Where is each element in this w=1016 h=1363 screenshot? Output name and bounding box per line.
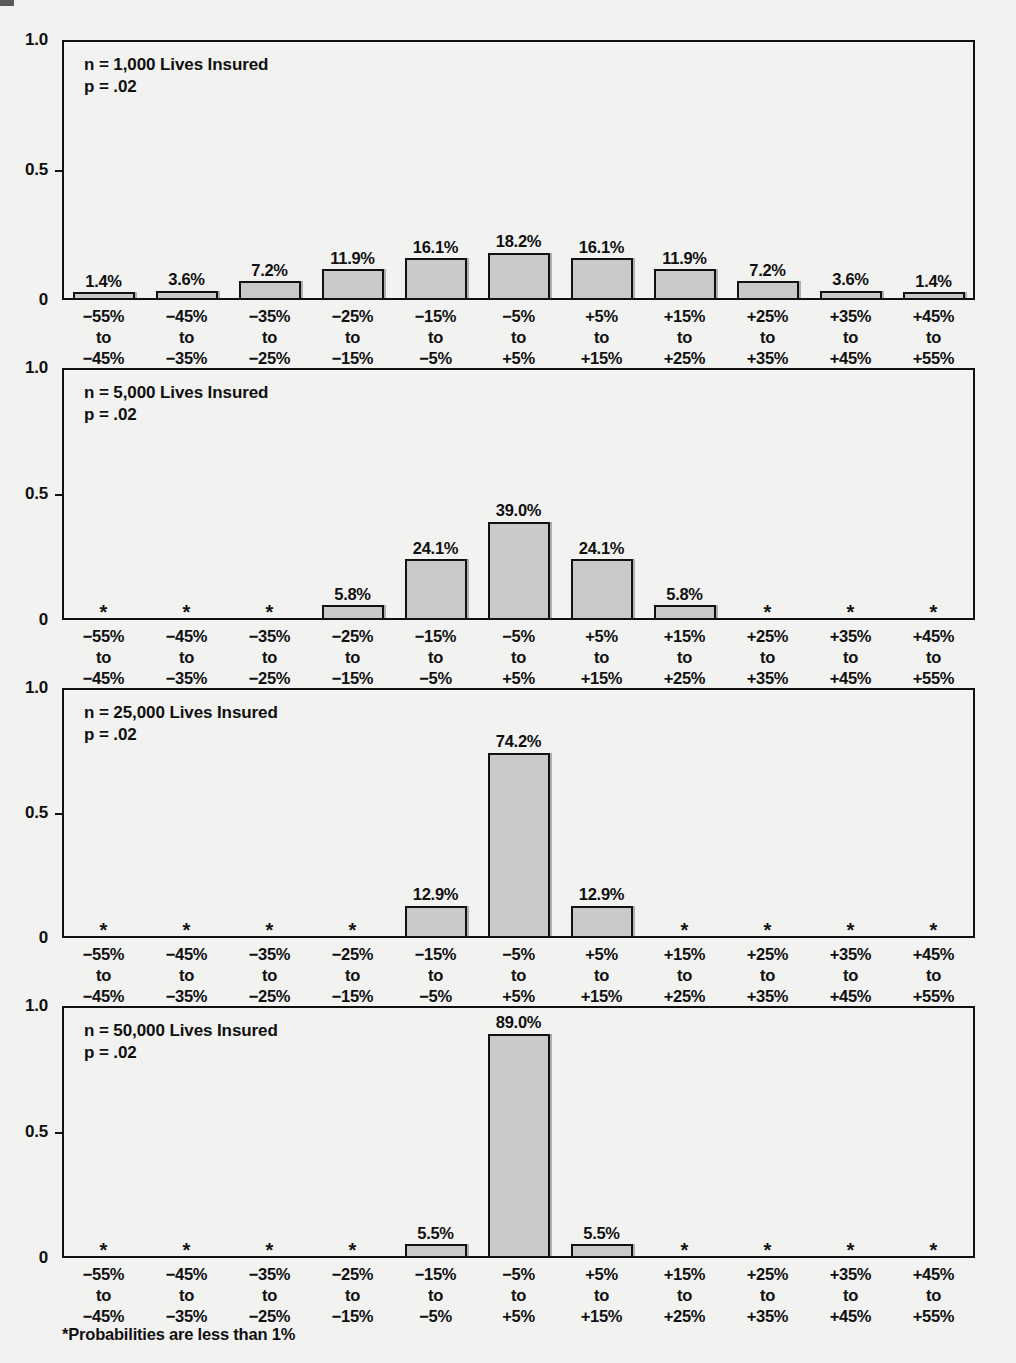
x-axis-tick-label: −5% to +5%: [477, 944, 560, 1007]
bar-value-label: 89.0%: [496, 1014, 541, 1031]
x-axis-labels: −55% to −45%−45% to −35%−35% to −25%−25%…: [62, 944, 975, 1007]
bar[interactable]: [571, 559, 633, 620]
x-axis-tick-label: −25% to −15%: [311, 944, 394, 1007]
bar[interactable]: [156, 291, 218, 300]
x-axis-tick-label: +25% to +35%: [726, 306, 809, 369]
x-axis-tick-label: −55% to −45%: [62, 626, 145, 689]
bar-slot: 12.9%: [560, 688, 643, 938]
y-axis-tick-label: 0.5: [0, 484, 48, 504]
x-axis-tick-label: −45% to −35%: [145, 944, 228, 1007]
x-axis-tick-label: −35% to −25%: [228, 1264, 311, 1327]
bar[interactable]: [571, 258, 633, 300]
bar[interactable]: [405, 258, 467, 300]
bar-value-label: 18.2%: [496, 233, 541, 250]
x-axis-tick-label: −45% to −35%: [145, 1264, 228, 1327]
bar-value-label: 39.0%: [496, 502, 541, 519]
bar-slot: 16.1%: [394, 40, 477, 300]
x-axis-tick-label: +5% to +15%: [560, 944, 643, 1007]
bar[interactable]: [571, 1244, 633, 1258]
bar-slot: *: [145, 368, 228, 620]
bar-value-label: 3.6%: [832, 271, 868, 288]
x-axis-tick-label: −45% to −35%: [145, 306, 228, 369]
bar[interactable]: [73, 292, 135, 300]
y-axis-tick-label: 1.0: [0, 996, 48, 1016]
less-than-one-percent-marker: *: [930, 1240, 938, 1260]
bar-slot: 11.9%: [643, 40, 726, 300]
bar[interactable]: [737, 281, 799, 300]
y-axis-tick-label: 1.0: [0, 30, 48, 50]
bar-value-label: 3.6%: [168, 271, 204, 288]
bar-value-label: 11.9%: [330, 250, 374, 267]
x-axis-tick-label: −35% to −25%: [228, 306, 311, 369]
x-axis-tick-label: −55% to −45%: [62, 1264, 145, 1327]
less-than-one-percent-marker: *: [266, 920, 274, 940]
y-axis-tick-label: 0: [0, 610, 48, 630]
bar-slot: *: [311, 688, 394, 938]
bar-slot: 5.5%: [394, 1006, 477, 1258]
less-than-one-percent-marker: *: [183, 1240, 191, 1260]
y-axis-tick-label: 0.5: [0, 803, 48, 823]
bar[interactable]: [239, 281, 301, 300]
bar[interactable]: [654, 269, 716, 300]
less-than-one-percent-marker: *: [930, 602, 938, 622]
bar[interactable]: [405, 1244, 467, 1258]
bar[interactable]: [488, 1034, 550, 1258]
bar-slot: *: [643, 688, 726, 938]
less-than-one-percent-marker: *: [847, 1240, 855, 1260]
bar-value-label: 7.2%: [251, 262, 287, 279]
bar-value-label: 5.5%: [583, 1225, 619, 1242]
less-than-one-percent-marker: *: [764, 602, 772, 622]
bar-slot: *: [809, 688, 892, 938]
bar-slot: *: [311, 1006, 394, 1258]
bar-slot: *: [809, 1006, 892, 1258]
bar[interactable]: [405, 906, 467, 938]
bar-slot: *: [643, 1006, 726, 1258]
x-axis-tick-label: +5% to +15%: [560, 626, 643, 689]
bar-slot: *: [228, 368, 311, 620]
less-than-one-percent-marker: *: [764, 920, 772, 940]
bar[interactable]: [405, 559, 467, 620]
x-axis-tick-label: +15% to +25%: [643, 626, 726, 689]
bar[interactable]: [654, 605, 716, 620]
x-axis-tick-label: −5% to +5%: [477, 1264, 560, 1327]
x-axis-tick-label: −15% to −5%: [394, 1264, 477, 1327]
less-than-one-percent-marker: *: [100, 602, 108, 622]
bar[interactable]: [488, 522, 550, 620]
bar-slot: 11.9%: [311, 40, 394, 300]
bar-slot: 1.4%: [892, 40, 975, 300]
x-axis-labels: −55% to −45%−45% to −35%−35% to −25%−25%…: [62, 626, 975, 689]
bar[interactable]: [903, 292, 965, 300]
x-axis-tick-label: +45% to +55%: [892, 1264, 975, 1327]
bar-slot: *: [892, 688, 975, 938]
bar-value-label: 24.1%: [579, 540, 624, 557]
x-axis-tick-label: +15% to +25%: [643, 944, 726, 1007]
x-axis-tick-label: −15% to −5%: [394, 944, 477, 1007]
bar-slot: 5.8%: [643, 368, 726, 620]
less-than-one-percent-marker: *: [349, 1240, 357, 1260]
x-axis-tick-label: +15% to +25%: [643, 1264, 726, 1327]
x-axis-tick-label: +45% to +55%: [892, 306, 975, 369]
bar-slot: 89.0%: [477, 1006, 560, 1258]
x-axis-tick-label: −55% to −45%: [62, 944, 145, 1007]
less-than-one-percent-marker: *: [183, 920, 191, 940]
x-axis-tick-label: +45% to +55%: [892, 626, 975, 689]
x-axis-tick-label: +25% to +35%: [726, 626, 809, 689]
bar[interactable]: [820, 291, 882, 300]
bar-slot: *: [62, 368, 145, 620]
bar[interactable]: [322, 269, 384, 300]
bar-slot: *: [726, 368, 809, 620]
bar[interactable]: [322, 605, 384, 620]
bar[interactable]: [488, 753, 550, 939]
bar-slot: 74.2%: [477, 688, 560, 938]
bar[interactable]: [488, 253, 550, 300]
bar-value-label: 11.9%: [662, 250, 706, 267]
less-than-one-percent-marker: *: [349, 920, 357, 940]
bar-slot: 5.5%: [560, 1006, 643, 1258]
bar-value-label: 5.8%: [666, 586, 702, 603]
x-axis-tick-label: +25% to +35%: [726, 944, 809, 1007]
bar-slot: 7.2%: [228, 40, 311, 300]
less-than-one-percent-marker: *: [930, 920, 938, 940]
bar[interactable]: [571, 906, 633, 938]
bar-series: ****12.9%74.2%12.9%****: [62, 688, 975, 938]
bar-series: ***5.8%24.1%39.0%24.1%5.8%***: [62, 368, 975, 620]
